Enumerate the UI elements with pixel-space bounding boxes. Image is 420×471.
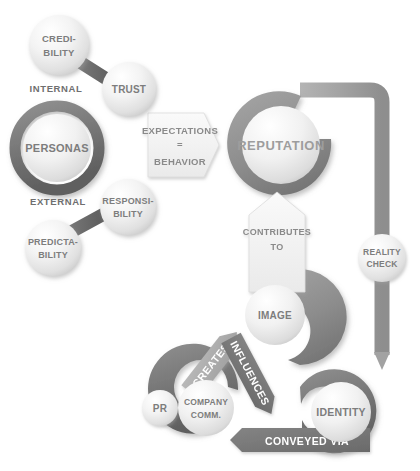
node-image-label: IMAGE <box>258 310 292 321</box>
node-company-comm-circle[interactable] <box>178 380 234 436</box>
node-identity[interactable]: IDENTITY <box>311 382 371 442</box>
banner-expectations-shape <box>148 113 219 177</box>
node-responsibility-label-line2: BILITY <box>113 209 143 219</box>
node-predictability-label-line2: BILITY <box>38 250 68 260</box>
banner-contributes-to-line1: CONTRIBUTES <box>243 227 311 237</box>
node-personas[interactable]: PERSONAS <box>23 114 91 182</box>
node-responsibility-circle[interactable] <box>100 179 156 235</box>
node-company-comm-label-line1: COMPANY <box>184 397 228 407</box>
banner-contributes-to: CONTRIBUTES TO <box>243 192 311 292</box>
node-reality-check-label-line2: CHECK <box>366 259 398 269</box>
node-reputation-label: REPUTATION <box>237 138 325 153</box>
label-external: EXTERNAL <box>30 196 86 207</box>
node-image[interactable]: IMAGE <box>245 285 305 345</box>
node-trust[interactable]: TRUST <box>102 62 156 116</box>
diagram-canvas: EXPECTATIONS = BEHAVIOR CONTRIBUTES TO C… <box>0 0 420 471</box>
label-internal: INTERNAL <box>30 83 83 94</box>
feedback-pipe-arrowhead <box>374 352 390 370</box>
node-predictability-circle[interactable] <box>25 220 81 276</box>
node-reality-check-label-line1: REALITY <box>363 247 401 257</box>
node-credibility-label-line1: CREDI- <box>42 33 76 44</box>
node-pr-label: PR <box>153 403 168 414</box>
node-company-comm-label-line2: COMM. <box>191 410 221 420</box>
node-predictability[interactable]: PREDICTA- BILITY <box>25 220 81 276</box>
banner-contributes-to-line2: TO <box>271 242 284 252</box>
node-pr[interactable]: PR <box>142 390 178 426</box>
banner-expectations-line3: BEHAVIOR <box>154 156 206 167</box>
banner-expectations: EXPECTATIONS = BEHAVIOR <box>142 113 219 177</box>
node-reality-check[interactable]: REALITY CHECK <box>358 234 406 282</box>
node-trust-label: TRUST <box>112 84 146 95</box>
node-predictability-label-line1: PREDICTA- <box>28 237 78 247</box>
banner-expectations-line1: EXPECTATIONS <box>142 125 218 136</box>
node-reality-check-circle[interactable] <box>358 234 406 282</box>
banner-expectations-line2: = <box>177 139 183 150</box>
node-credibility-circle[interactable] <box>29 15 89 75</box>
node-identity-label: IDENTITY <box>316 406 365 418</box>
node-personas-label: PERSONAS <box>25 142 88 154</box>
node-credibility-label-line2: BILITY <box>43 47 75 58</box>
node-responsibility[interactable]: RESPONSI- BILITY <box>100 179 156 235</box>
node-credibility[interactable]: CREDI- BILITY <box>29 15 89 75</box>
node-company-comm[interactable]: COMPANY COMM. <box>178 380 234 436</box>
reputation-diagram: EXPECTATIONS = BEHAVIOR CONTRIBUTES TO C… <box>0 0 420 471</box>
node-responsibility-label-line1: RESPONSI- <box>102 196 153 206</box>
